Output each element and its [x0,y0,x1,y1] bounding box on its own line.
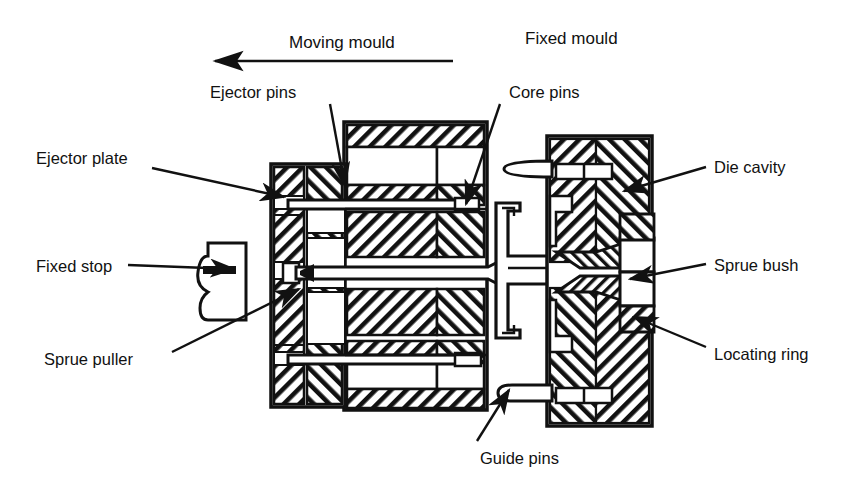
heading-fixed-mould: Fixed mould [525,29,618,48]
label-core-pins: Core pins [509,83,580,101]
label-ejector-pins: Ejector pins [210,83,296,101]
label-ejector-plate: Ejector plate [36,149,128,167]
injection-mould-diagram: Moving mould Fixed mould Ejector pins Ej… [0,0,863,486]
guide-pin-upper [504,161,552,177]
label-fixed-stop: Fixed stop [36,257,112,275]
label-die-cavity: Die cavity [714,158,786,176]
label-sprue-bush: Sprue bush [714,256,798,274]
moving-mould-half [271,122,498,410]
heading-moving-mould: Moving mould [289,33,395,52]
label-guide-pins: Guide pins [480,449,559,467]
label-sprue-puller: Sprue puller [44,350,133,368]
label-locating-ring: Locating ring [714,345,808,363]
sprue-bush [620,238,654,306]
